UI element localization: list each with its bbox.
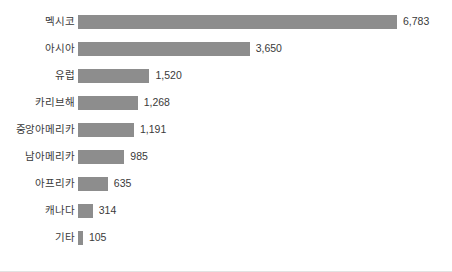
bar <box>78 177 108 191</box>
value-label: 6,783 <box>397 16 429 27</box>
bar-track: 1,268 <box>78 89 452 116</box>
category-label: 중앙아메리카 <box>0 124 78 135</box>
bar-chart: 멕시코6,783아시아3,650유럽1,520카리브해1,268중앙아메리카1,… <box>0 0 452 272</box>
bar-row: 아프리카635 <box>0 170 452 197</box>
category-label: 아시아 <box>0 43 78 54</box>
bar <box>78 123 134 137</box>
bar-track: 6,783 <box>78 8 452 35</box>
bar-track: 314 <box>78 197 452 224</box>
category-label: 멕시코 <box>0 16 78 27</box>
bar <box>78 69 149 83</box>
plot-area: 멕시코6,783아시아3,650유럽1,520카리브해1,268중앙아메리카1,… <box>0 0 452 258</box>
bar <box>78 96 138 110</box>
bar-track: 635 <box>78 170 452 197</box>
bar-track: 1,520 <box>78 62 452 89</box>
bar <box>78 42 250 56</box>
bar-track: 105 <box>78 224 452 251</box>
category-label: 캐나다 <box>0 205 78 216</box>
value-label: 105 <box>83 232 107 243</box>
bar-row: 기타105 <box>0 224 452 251</box>
bar-track: 3,650 <box>78 35 452 62</box>
bar <box>78 150 124 164</box>
value-label: 1,268 <box>138 97 170 108</box>
bar <box>78 15 397 29</box>
bar-row: 아시아3,650 <box>0 35 452 62</box>
category-label: 카리브해 <box>0 97 78 108</box>
bar-row: 유럽1,520 <box>0 62 452 89</box>
bar-track: 985 <box>78 143 452 170</box>
category-label: 아프리카 <box>0 178 78 189</box>
value-label: 314 <box>93 205 117 216</box>
bar-row: 남아메리카985 <box>0 143 452 170</box>
category-label: 유럽 <box>0 70 78 81</box>
bar-row: 멕시코6,783 <box>0 8 452 35</box>
value-label: 1,520 <box>149 70 181 81</box>
value-label: 985 <box>124 151 148 162</box>
bar-row: 중앙아메리카1,191 <box>0 116 452 143</box>
value-label: 1,191 <box>134 124 166 135</box>
category-label: 남아메리카 <box>0 151 78 162</box>
bar-track: 1,191 <box>78 116 452 143</box>
bar-row: 캐나다314 <box>0 197 452 224</box>
bar-row: 카리브해1,268 <box>0 89 452 116</box>
value-label: 3,650 <box>250 43 282 54</box>
category-label: 기타 <box>0 232 78 243</box>
bar <box>78 204 93 218</box>
value-label: 635 <box>108 178 132 189</box>
